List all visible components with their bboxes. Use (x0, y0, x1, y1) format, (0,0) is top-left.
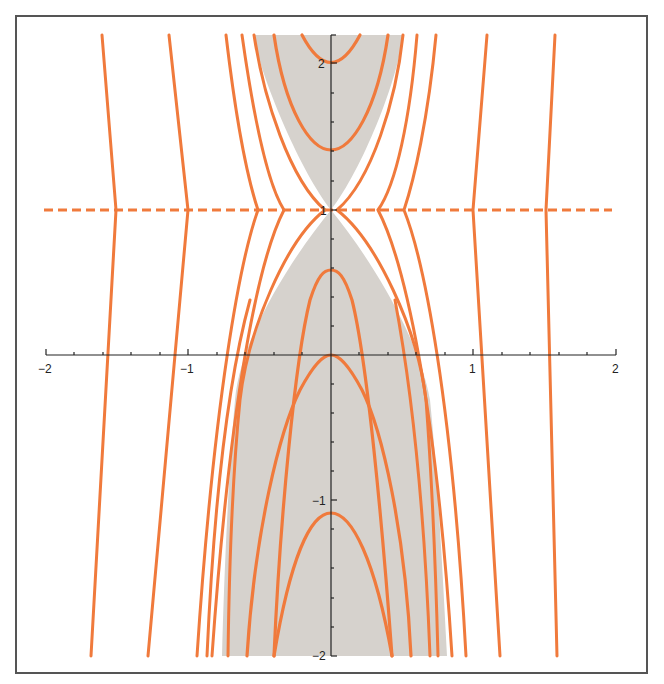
y-tick-label-1: 1 (320, 204, 327, 218)
y-tick-label-2: 2 (318, 57, 325, 71)
y-tick-label-neg2: −2 (312, 649, 326, 663)
contour-plot: −2 −1 1 2 2 1 −1 −2 (0, 0, 664, 684)
curve-left-2 (148, 35, 188, 656)
curve-right-5 (546, 35, 557, 656)
x-tick-label-1: 1 (469, 362, 476, 376)
curve-right-4 (473, 35, 500, 656)
x-tick-label-neg1: −1 (180, 362, 194, 376)
x-tick-label-2: 2 (612, 362, 619, 376)
curve-left-1 (91, 35, 116, 656)
y-tick-label-neg1: −1 (312, 494, 326, 508)
x-tick-label-neg2: −2 (38, 362, 52, 376)
